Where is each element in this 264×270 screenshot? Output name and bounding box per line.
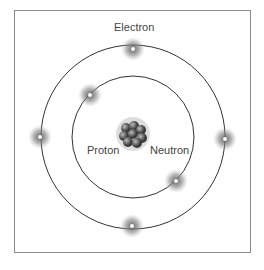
atom-diagram bbox=[0, 0, 264, 270]
electron-icon bbox=[164, 169, 188, 193]
proton-label: Proton bbox=[87, 144, 119, 156]
nucleus bbox=[116, 117, 150, 151]
neutron-label: Neutron bbox=[150, 144, 189, 156]
electron-icon bbox=[121, 37, 145, 61]
electron-icon bbox=[120, 214, 144, 238]
electron-icon bbox=[213, 127, 237, 151]
electron-label: Electron bbox=[114, 21, 154, 33]
electron-icon bbox=[78, 83, 102, 107]
electron-icon bbox=[28, 125, 52, 149]
